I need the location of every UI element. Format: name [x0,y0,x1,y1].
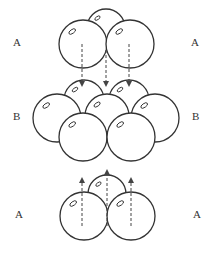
sphere [107,113,155,161]
layer-b-middle [33,80,179,161]
close-packing-diagram [0,0,214,255]
sphere [59,20,107,68]
sphere [106,20,154,68]
sphere [59,113,107,161]
layer-a-top [59,9,154,68]
sphere [60,192,108,240]
